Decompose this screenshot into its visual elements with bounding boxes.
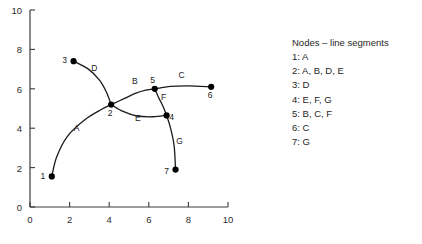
legend-row-node: 7: xyxy=(292,136,300,147)
node-point-5 xyxy=(152,86,158,92)
segment-G xyxy=(167,115,176,169)
y-axis-tick-label: 8 xyxy=(17,44,22,55)
legend-row-node: 5: xyxy=(292,108,300,119)
segment-label-B: B xyxy=(132,76,138,86)
x-axis-tick-label: 8 xyxy=(186,214,191,225)
node-point-7 xyxy=(172,166,178,172)
x-axis-tick-label: 4 xyxy=(107,214,112,225)
node-label-7: 7 xyxy=(164,166,169,176)
legend-row-segments: A xyxy=(300,51,308,62)
legend: Nodes – line segments 1: A2: A, B, D, E3… xyxy=(292,36,418,149)
x-axis-tick-label: 2 xyxy=(67,214,72,225)
node-point-3 xyxy=(70,58,76,64)
legend-row-node: 6: xyxy=(292,122,300,133)
y-axis-tick-label: 0 xyxy=(17,202,22,213)
y-axis-tick-label: 6 xyxy=(17,84,22,95)
node-label-1: 1 xyxy=(40,171,45,181)
axes: 02468100246810 xyxy=(11,5,233,225)
legend-row-segments: A, B, D, E xyxy=(300,65,344,76)
y-axis-tick-label: 2 xyxy=(17,163,22,174)
segment-label-C: C xyxy=(178,70,184,80)
segment-C xyxy=(155,86,211,89)
legend-row: 4: E, F, G xyxy=(292,93,418,107)
segment-label-D: D xyxy=(91,63,97,73)
segment-label-G: G xyxy=(176,136,183,146)
legend-title: Nodes – line segments xyxy=(292,36,418,50)
node-label-5: 5 xyxy=(150,75,155,85)
legend-row-segments: B, C, F xyxy=(300,108,332,119)
legend-row-node: 2: xyxy=(292,65,300,76)
x-axis-tick-label: 6 xyxy=(146,214,151,225)
legend-row: 5: B, C, F xyxy=(292,107,418,121)
x-axis-tick-label: 0 xyxy=(27,214,32,225)
node-point-1 xyxy=(49,173,55,179)
legend-row-segments: G xyxy=(300,136,310,147)
legend-row-node: 3: xyxy=(292,79,300,90)
segment-label-F: F xyxy=(161,92,166,102)
legend-row: 7: G xyxy=(292,135,418,149)
node-label-3: 3 xyxy=(62,55,67,65)
node-label-2: 2 xyxy=(108,108,113,118)
legend-row-segments: D xyxy=(300,79,310,90)
legend-rows: 1: A2: A, B, D, E3: D4: E, F, G5: B, C, … xyxy=(292,50,418,149)
node-label-6: 6 xyxy=(208,90,213,100)
y-axis-tick-label: 4 xyxy=(17,123,22,134)
legend-row: 2: A, B, D, E xyxy=(292,64,418,78)
legend-row-segments: E, F, G xyxy=(300,94,332,105)
legend-row-segments: C xyxy=(300,122,310,133)
segment-label-E: E xyxy=(135,113,141,123)
segment-A xyxy=(52,105,111,177)
x-axis-tick-label: 10 xyxy=(223,214,234,225)
legend-row-node: 4: xyxy=(292,94,300,105)
plot-labels: ABCDEFG1234567 xyxy=(40,55,212,181)
y-axis-tick-label: 10 xyxy=(11,5,22,16)
legend-row: 6: C xyxy=(292,121,418,135)
segment-B xyxy=(111,89,155,105)
node-label-4: 4 xyxy=(169,112,174,122)
figure-container: 02468100246810 ABCDEFG1234567 Nodes – li… xyxy=(0,0,422,244)
legend-row: 3: D xyxy=(292,78,418,92)
legend-row-node: 1: xyxy=(292,51,300,62)
segment-label-A: A xyxy=(74,123,80,133)
legend-row: 1: A xyxy=(292,50,418,64)
